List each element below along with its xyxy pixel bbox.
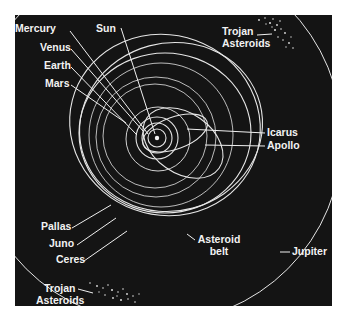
trojan-top-leader bbox=[257, 34, 272, 35]
label-jupiter: Jupiter bbox=[292, 246, 327, 257]
label-mercury: Mercury bbox=[15, 23, 56, 34]
label-ceres: Ceres bbox=[56, 254, 85, 265]
label-earth: Earth bbox=[44, 60, 71, 71]
trojan-bottom-leader bbox=[78, 289, 93, 293]
sun-leader bbox=[121, 28, 155, 134]
apollo-orbit bbox=[130, 93, 236, 193]
asteroid-belt-inner bbox=[103, 84, 207, 188]
label-asteroid-belt-1: Asteroid bbox=[197, 234, 241, 245]
label-venus: Venus bbox=[40, 42, 71, 53]
mercury-leader bbox=[70, 31, 148, 134]
label-mars: Mars bbox=[45, 78, 70, 89]
sun-dot bbox=[155, 136, 159, 140]
label-pallas: Pallas bbox=[41, 221, 71, 232]
label-juno: Juno bbox=[49, 238, 74, 249]
label-apollo: Apollo bbox=[267, 140, 300, 151]
diagram-panel: Mercury Sun Venus Earth Mars Trojan Aste… bbox=[15, 15, 332, 306]
icarus-leader bbox=[187, 129, 265, 133]
pallas-orbit bbox=[44, 15, 286, 242]
label-trojan-bottom-2: Asteroids bbox=[36, 295, 84, 306]
asteroid-belt-leader bbox=[187, 234, 195, 240]
label-trojan-bottom-1: Trojan bbox=[44, 283, 76, 294]
label-trojan-top-2: Asteroids bbox=[222, 38, 270, 49]
pallas-leader bbox=[72, 205, 111, 228]
label-asteroid-belt-2: belt bbox=[197, 246, 241, 257]
apollo-leader bbox=[205, 145, 265, 146]
trojan-asteroids-bottom-cluster bbox=[89, 282, 140, 303]
label-sun: Sun bbox=[96, 23, 116, 34]
label-icarus: Icarus bbox=[267, 127, 298, 138]
label-trojan-top-1: Trojan bbox=[222, 26, 254, 37]
